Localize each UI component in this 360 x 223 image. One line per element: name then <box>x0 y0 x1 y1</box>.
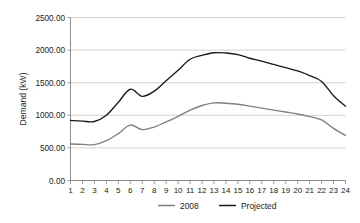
y-axis-title: Demand (kW) <box>18 72 28 125</box>
chart-axes <box>68 18 346 185</box>
x-tick-label-9: 9 <box>164 186 169 195</box>
y-tick-label-2500: 2500.00 <box>35 14 65 23</box>
x-tick-label-17: 17 <box>257 186 266 195</box>
x-tick-label-24: 24 <box>341 186 350 195</box>
x-tick-label-20: 20 <box>293 186 302 195</box>
data-series <box>71 53 346 145</box>
x-tick-label-19: 19 <box>281 186 290 195</box>
y-tick-label-0: 0.00 <box>49 177 65 186</box>
y-axis-title-label: Demand (kW) <box>18 72 28 125</box>
x-tick-label-3: 3 <box>92 186 97 195</box>
gridlines <box>71 18 346 148</box>
x-tick-label-15: 15 <box>233 186 242 195</box>
legend-label-projected: Projected <box>241 201 277 211</box>
x-tick-label-7: 7 <box>140 186 145 195</box>
x-tick-label-21: 21 <box>305 186 314 195</box>
x-tick-label-4: 4 <box>104 186 109 195</box>
y-tick-label-500: 500.00 <box>40 144 65 153</box>
x-tick-label-2: 2 <box>80 186 85 195</box>
x-tick-label-14: 14 <box>221 186 230 195</box>
x-tick-label-16: 16 <box>245 186 254 195</box>
y-tick-label-1000: 1000.00 <box>35 111 65 120</box>
legend-label-2008: 2008 <box>180 201 199 211</box>
chart-legend: 2008Projected <box>158 201 277 211</box>
x-tick-label-11: 11 <box>186 186 195 195</box>
x-tick-label-5: 5 <box>116 186 121 195</box>
x-axis-tick-labels: 123456789101112131415161718192021222324 <box>68 186 350 195</box>
series-line-projected <box>71 53 346 122</box>
y-tick-label-1500: 1500.00 <box>35 79 65 88</box>
demand-line-chart: 0.00500.001000.001500.002000.002500.00 1… <box>0 0 360 223</box>
chart-canvas: 0.00500.001000.001500.002000.002500.00 1… <box>0 0 360 223</box>
x-tick-label-10: 10 <box>174 186 183 195</box>
x-tick-label-22: 22 <box>317 186 326 195</box>
x-tick-label-18: 18 <box>269 186 278 195</box>
x-tick-label-1: 1 <box>68 186 73 195</box>
y-tick-label-2000: 2000.00 <box>35 46 65 55</box>
x-tick-label-23: 23 <box>329 186 338 195</box>
x-tick-label-8: 8 <box>152 186 157 195</box>
x-tick-label-12: 12 <box>198 186 207 195</box>
y-axis-tick-labels: 0.00500.001000.001500.002000.002500.00 <box>35 14 65 186</box>
x-tick-label-13: 13 <box>210 186 219 195</box>
x-tick-label-6: 6 <box>128 186 133 195</box>
